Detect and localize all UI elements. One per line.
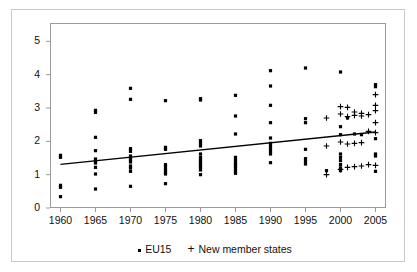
x-tick-label: 1985 <box>216 214 256 226</box>
data-point-square <box>339 163 342 166</box>
data-point-plus <box>352 164 358 170</box>
data-point-square <box>353 132 356 135</box>
data-point-square <box>94 136 97 139</box>
data-point-square <box>269 161 272 164</box>
data-point-square <box>304 162 307 165</box>
x-tick-label: 1995 <box>286 214 326 226</box>
data-point-plus <box>338 139 344 145</box>
data-point-square <box>339 159 342 162</box>
data-point-square <box>269 152 272 155</box>
data-point-plus <box>338 167 344 173</box>
data-point-plus <box>352 141 358 147</box>
data-point-square <box>304 117 307 120</box>
data-point-plus <box>373 163 379 169</box>
data-point-square <box>59 156 62 159</box>
data-point-square <box>199 152 202 155</box>
data-point-square <box>164 182 167 185</box>
legend-item-eu15: EU15 <box>138 243 171 255</box>
data-point-square <box>94 111 97 114</box>
data-point-plus <box>373 120 379 126</box>
x-tick-label: 1975 <box>146 214 186 226</box>
data-point-plus <box>359 163 365 169</box>
data-point-square <box>164 148 167 151</box>
chart-legend: EU15 + New member states <box>80 240 350 258</box>
trendline <box>61 132 376 164</box>
data-point-square <box>374 154 377 157</box>
data-point-plus <box>324 172 330 178</box>
data-point-plus <box>345 165 351 171</box>
data-point-square <box>94 149 97 152</box>
x-tick-label: 2005 <box>356 214 396 226</box>
x-tick-label: 1990 <box>251 214 291 226</box>
data-point-square <box>129 170 132 173</box>
data-point-square <box>339 152 342 155</box>
data-point-square <box>269 104 272 107</box>
data-point-square <box>94 187 97 190</box>
x-tick-label: 1970 <box>111 214 151 226</box>
data-point-square <box>129 98 132 101</box>
data-point-square <box>199 144 202 147</box>
data-point-square <box>199 168 202 171</box>
data-point-square <box>94 161 97 164</box>
data-point-square <box>374 170 377 173</box>
x-tick-label: 1960 <box>41 214 81 226</box>
chart-figure: 012345 196019651970197519801985199019952… <box>0 0 417 272</box>
data-point-square <box>199 98 202 101</box>
data-point-plus <box>366 112 372 118</box>
data-point-square <box>234 94 237 97</box>
data-point-square <box>199 173 202 176</box>
y-tick-label: 1 <box>18 168 40 180</box>
legend-item-new-member-states: + New member states <box>187 243 291 255</box>
data-point-square <box>234 172 237 175</box>
data-point-square <box>129 185 132 188</box>
y-tick-label: 5 <box>18 34 40 46</box>
data-point-plus <box>366 162 372 168</box>
data-point-square <box>59 186 62 189</box>
data-point-square <box>164 99 167 102</box>
x-tick-label: 1980 <box>181 214 221 226</box>
y-tick-label: 0 <box>18 201 40 213</box>
data-point-plus <box>373 92 379 98</box>
data-point-plus <box>345 105 351 111</box>
data-point-square <box>339 70 342 73</box>
plus-marker-icon: + <box>187 244 194 254</box>
data-point-square <box>360 133 363 136</box>
data-point-square <box>129 150 132 153</box>
y-tick-label: 2 <box>18 134 40 146</box>
data-point-plus <box>373 130 379 136</box>
data-point-square <box>269 69 272 72</box>
data-point-square <box>234 132 237 135</box>
chart-canvas <box>0 0 417 272</box>
data-point-square <box>129 87 132 90</box>
data-point-square <box>94 166 97 169</box>
data-point-square <box>339 133 342 136</box>
x-axis-ticks <box>61 208 376 212</box>
data-point-plus <box>352 113 358 119</box>
series-eu15-markers <box>59 66 377 198</box>
data-point-plus <box>373 108 379 114</box>
data-point-plus <box>338 111 344 117</box>
data-point-plus <box>338 104 344 110</box>
data-point-plus <box>373 103 379 109</box>
data-point-square <box>339 125 342 128</box>
x-tick-label: 2000 <box>321 214 361 226</box>
data-point-square <box>339 156 342 159</box>
data-point-square <box>234 114 237 117</box>
trendline-path <box>61 132 376 164</box>
data-point-square <box>129 166 132 169</box>
x-tick-label: 1965 <box>76 214 116 226</box>
data-point-square <box>94 172 97 175</box>
data-point-plus <box>324 115 330 121</box>
data-point-square <box>325 169 328 172</box>
y-tick-label: 3 <box>18 101 40 113</box>
data-point-square <box>59 195 62 198</box>
data-point-plus <box>359 140 365 146</box>
data-point-square <box>374 85 377 88</box>
legend-label-new-member-states: New member states <box>198 243 291 255</box>
data-point-square <box>304 66 307 69</box>
y-tick-label: 4 <box>18 68 40 80</box>
legend-label-eu15: EU15 <box>145 243 171 255</box>
data-point-plus <box>324 143 330 149</box>
square-marker-icon <box>138 249 141 252</box>
data-point-plus <box>359 113 365 119</box>
